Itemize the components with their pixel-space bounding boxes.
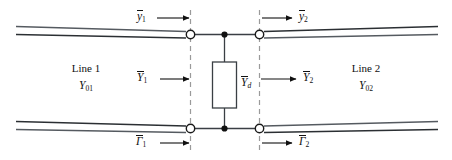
shunt-admittance-subscript: d (247, 81, 251, 90)
flow-label-bottom-left: Γ1 (136, 135, 146, 149)
flow-label-mid-left: Y1 (137, 71, 147, 85)
flow-label-mid-right-subscript: 2 (309, 76, 313, 85)
flow-label-mid-left-subscript: 1 (143, 76, 147, 85)
flow-label-top-right: y2 (299, 10, 308, 24)
line1-characteristic-admittance: Y01 (40, 80, 132, 93)
line1-label-group: Line 1 Y01 (40, 63, 132, 93)
transmission-line-figure: y1 y2 Y1 Y2 Γ1 Γ2 Yd Line 1 Y01 Line 2 Y… (0, 0, 452, 160)
flow-label-bottom-right: Γ2 (299, 135, 309, 149)
line2-bottom-conductor (264, 122, 438, 133)
line1-characteristic-subscript: 01 (85, 84, 93, 93)
line2-characteristic-admittance: Y02 (320, 80, 412, 93)
shunt-admittance-symbol: Y (241, 76, 247, 89)
terminal-bottom-left (186, 124, 194, 132)
junction-dot-top (221, 31, 227, 37)
flow-label-top-left: y1 (137, 10, 146, 24)
flow-label-top-left-symbol: y (137, 10, 142, 23)
flow-label-top-right-subscript: 2 (304, 15, 308, 24)
flow-label-mid-right-symbol: Y (303, 71, 309, 84)
flow-label-top-left-subscript: 1 (142, 15, 146, 24)
flow-label-bottom-left-subscript: 1 (143, 140, 147, 149)
shunt-admittance-label: Yd (241, 76, 251, 90)
line2-label-group: Line 2 Y02 (320, 63, 412, 93)
flow-label-bottom-right-subscript: 2 (306, 140, 310, 149)
junction-dot-bottom (221, 125, 227, 131)
shunt-admittance-box (213, 62, 237, 108)
flow-label-mid-left-symbol: Y (137, 71, 143, 84)
terminal-bottom-right (255, 124, 263, 132)
line2-top-conductor (264, 27, 438, 39)
terminal-top-right (255, 30, 263, 38)
terminal-top-left (186, 30, 194, 38)
flow-label-top-right-symbol: y (299, 10, 304, 23)
line1-bottom-conductor (16, 122, 186, 133)
flow-label-bottom-left-symbol: Γ (136, 135, 143, 148)
line2-characteristic-subscript: 02 (365, 84, 373, 93)
flow-label-mid-right: Y2 (303, 71, 313, 85)
line2-name: Line 2 (320, 63, 412, 74)
flow-label-bottom-right-symbol: Γ (299, 135, 306, 148)
line1-name: Line 1 (40, 63, 132, 74)
line1-top-conductor (16, 27, 186, 39)
